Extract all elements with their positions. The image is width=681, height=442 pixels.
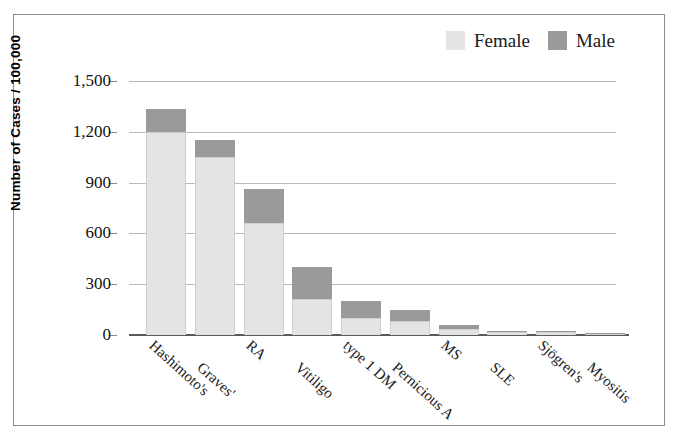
y-axis-tick-label: 300 xyxy=(86,274,112,294)
bar-segment-male[interactable] xyxy=(292,267,332,298)
bar-stack[interactable] xyxy=(341,301,381,335)
chart-frame: Female Male Number of Cases / 100,000 03… xyxy=(13,14,665,426)
x-axis-label: type 1 DM xyxy=(340,337,400,393)
y-axis-tick-label: 900 xyxy=(86,173,112,193)
bar-segment-female[interactable] xyxy=(390,321,430,335)
bar-segment-female[interactable] xyxy=(146,132,186,335)
legend-swatch-male xyxy=(548,31,567,50)
plot-region: 03006009001,2001,500 xyxy=(129,67,629,335)
y-axis-tick-label: 600 xyxy=(86,223,112,243)
bar-segment-male[interactable] xyxy=(195,140,235,157)
x-axis-label: Myositis xyxy=(584,359,634,407)
bar-segment-male[interactable] xyxy=(146,109,186,132)
bar-segment-male[interactable] xyxy=(341,301,381,318)
legend-label-female: Female xyxy=(474,31,530,50)
bar-stack[interactable] xyxy=(439,325,479,335)
y-axis-tick-label: 0 xyxy=(103,325,112,345)
legend-label-male: Male xyxy=(576,31,615,50)
x-axis-label: MS xyxy=(437,337,464,364)
bar-stack[interactable] xyxy=(195,140,235,335)
bar-segment-male[interactable] xyxy=(244,189,284,224)
legend-item-female: Female xyxy=(446,31,530,50)
legend-item-male: Male xyxy=(548,31,615,50)
bar-segment-female[interactable] xyxy=(195,157,235,335)
legend-swatch-female xyxy=(446,31,465,50)
y-axis-title: Number of Cases / 100,000 xyxy=(8,35,23,211)
bar-segment-male[interactable] xyxy=(390,310,430,321)
bar-stack[interactable] xyxy=(390,310,430,335)
bar-stack[interactable] xyxy=(292,267,332,335)
x-axis-label: Sjögren's xyxy=(535,337,587,387)
x-axis-label: Vitiligo xyxy=(291,359,336,402)
bar-stack[interactable] xyxy=(146,109,186,335)
bar-segment-female[interactable] xyxy=(341,318,381,335)
bar-series-group xyxy=(142,81,629,335)
bar-segment-female[interactable] xyxy=(244,223,284,335)
x-axis-label: RA xyxy=(243,337,270,364)
bar-segment-female[interactable] xyxy=(292,299,332,335)
y-axis-tick-label: 1,500 xyxy=(73,71,111,91)
y-axis-tick-label: 1,200 xyxy=(73,122,111,142)
x-axis-labels: Hashimoto'sGraves'RAVitiligotype 1 DMPer… xyxy=(129,335,629,442)
bar-stack[interactable] xyxy=(244,189,284,335)
x-axis-label: SLE xyxy=(486,359,517,389)
x-axis-label: Pernicious A xyxy=(389,359,458,423)
chart-legend: Female Male xyxy=(446,31,615,50)
